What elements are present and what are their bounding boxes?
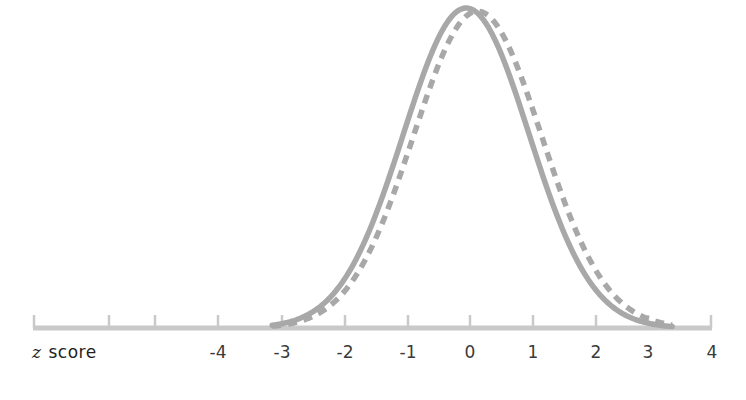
tick-label-1: 1: [528, 342, 539, 362]
tick-label-3: 3: [643, 342, 654, 362]
tick-label-neg4: -4: [210, 342, 227, 362]
tick-label-2: 2: [591, 342, 602, 362]
dashed-normal-curve: [272, 11, 672, 326]
axis-title-score-word: score: [48, 342, 96, 362]
tick-label-neg2: -2: [337, 342, 354, 362]
tick-label-neg1: -1: [400, 342, 417, 362]
tick-label-4: 4: [707, 342, 718, 362]
tick-label-0: 0: [465, 342, 476, 362]
tick-label-neg3: -3: [274, 342, 291, 362]
solid-normal-curve: [272, 8, 672, 327]
x-axis-title: zscore: [32, 342, 97, 362]
z-score-normal-curve-figure: zscore -4 -3 -2 -1 0 1 2 3 4: [0, 0, 746, 400]
normal-distribution-plot: [0, 0, 746, 400]
axis-title-z-symbol: z: [32, 342, 48, 362]
